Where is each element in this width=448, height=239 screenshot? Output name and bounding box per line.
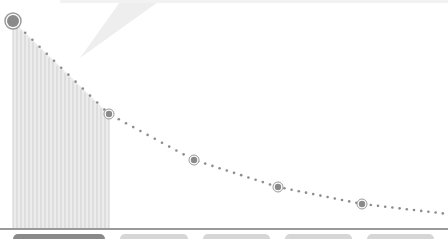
tab-4[interactable] — [285, 234, 352, 239]
tab-2[interactable] — [120, 234, 188, 239]
x-axis-baseline — [0, 228, 448, 230]
decay-chart — [0, 0, 448, 239]
callout-pointer — [60, 0, 448, 58]
shaded-area — [13, 21, 109, 229]
tab-1[interactable] — [13, 234, 105, 239]
tab-3[interactable] — [203, 234, 270, 239]
tab-5[interactable] — [367, 234, 434, 239]
